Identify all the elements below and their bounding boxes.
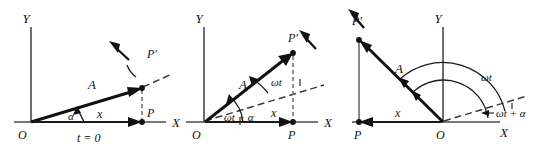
panel-2-angle-label-inner: ωt + α	[224, 111, 254, 123]
panel-2-angle-label-outer: ωt	[271, 76, 283, 88]
panel-1-point-p-prime	[139, 85, 145, 91]
panel-2-vector-label: A	[238, 77, 247, 92]
panel-2-initial-position-dashed-line	[205, 85, 324, 121]
panel-3-angle-arc-inner	[413, 80, 488, 118]
panel-2-y-axis-label: Y	[195, 11, 204, 26]
panel-3-angle-label-outer: ωt	[481, 71, 493, 83]
panel-1-y-axis-label: Y	[22, 11, 31, 26]
panel-2-x-axis-label: X	[323, 115, 333, 130]
panel-1-angle-label: α	[68, 110, 74, 122]
panel-3-y-axis-label: Y	[434, 11, 443, 26]
panel-1-x-axis-label: X	[171, 115, 181, 130]
panel-2-origin-label: O	[192, 128, 201, 142]
figure-canvas: Y X O A P' P x α t = 0	[0, 0, 541, 151]
rotating-vector-figure: Y X O A P' P x α t = 0	[0, 0, 541, 151]
panel-2-foot-label: P	[287, 128, 296, 142]
panel-3-x-axis-label: X	[499, 125, 509, 140]
panel-3-angle-arc-outer	[400, 62, 505, 111]
panel-1: Y X O A P' P x α t = 0	[14, 11, 181, 145]
panel-2-projection-label: x	[270, 106, 277, 120]
panel-3-point-p	[356, 119, 362, 125]
panel-1-caption: t = 0	[77, 131, 100, 145]
panel-1-velocity-arrowhead	[109, 41, 120, 53]
panel-2-point-p-prime	[290, 50, 296, 56]
panel-1-vector-label: A	[87, 77, 96, 92]
panel-3: Y X O A P' P x ωt ωt + α	[348, 9, 527, 142]
panel-1-foot-label: P	[146, 106, 155, 120]
panel-1-tip-label: P'	[146, 47, 157, 61]
panel-3-origin-label: O	[436, 128, 445, 142]
panel-1-reference-dashed-line	[143, 74, 172, 87]
panel-1-point-p	[139, 119, 145, 125]
panel-1-origin-label: O	[18, 128, 27, 142]
panel-3-tip-label: P'	[351, 14, 362, 28]
panel-1-projection-label: x	[96, 107, 103, 121]
panel-3-point-p-prime	[356, 37, 362, 43]
panel-3-vector-label: A	[394, 61, 403, 76]
panel-2: Y X O A P' P x ωt ωt + α	[186, 11, 333, 142]
panel-3-angle-label-leader-arrowhead	[481, 110, 489, 116]
panel-1-rotation-hint-arc	[127, 65, 136, 77]
panel-2-point-p	[290, 119, 296, 125]
panel-3-angle-label-inner: ωt + α	[496, 107, 526, 119]
panel-3-projection-label: x	[394, 106, 401, 120]
panel-3-foot-label: P	[353, 128, 362, 142]
panel-2-tip-label: P'	[287, 31, 298, 45]
